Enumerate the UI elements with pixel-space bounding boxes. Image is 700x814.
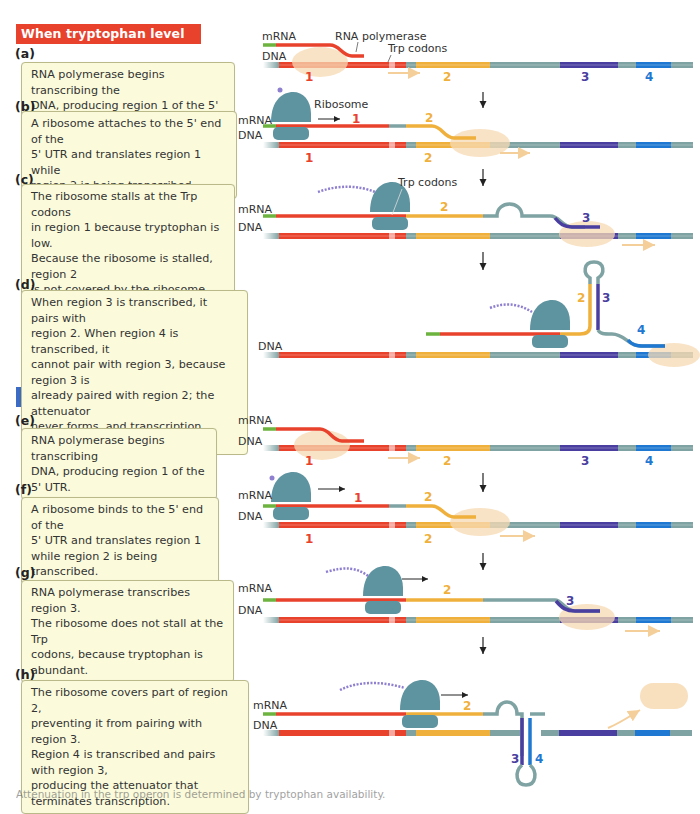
dna-label: DNA: [238, 129, 263, 142]
region-2-label: 2: [440, 200, 448, 214]
mrna-label: mRNA: [262, 30, 297, 43]
panel-d: DNA 2 3 4: [258, 262, 700, 367]
dna-label: DNA: [238, 221, 263, 234]
ribosome: [271, 472, 311, 520]
mrna-label: mRNA: [238, 203, 273, 216]
region-3-label: 3: [581, 70, 589, 84]
region-2-label: 2: [443, 583, 451, 597]
ribosome: [363, 566, 403, 614]
mrna-label: mRNA: [238, 489, 273, 502]
region-3-label: 3: [581, 454, 589, 468]
region-1-label: 1: [305, 151, 313, 165]
panel-f: mRNA DNA 1 2 1 2: [238, 472, 693, 546]
panel-b: mRNA DNA Ribosome 1 2 1 2: [238, 88, 693, 166]
rna-polymerase: [294, 430, 350, 460]
peptide-chain: [490, 305, 532, 312]
region-1-label: 1: [305, 70, 313, 84]
region-1-label: 1: [305, 454, 313, 468]
dna-label: DNA: [253, 719, 278, 732]
region-2-label: 2: [443, 70, 451, 84]
trp-codons-label: Trp codons: [397, 176, 458, 189]
dna-label: DNA: [238, 510, 263, 523]
figure-caption: Attenuation in the trp operon is determi…: [16, 788, 385, 800]
ribosome-label: Ribosome: [314, 98, 369, 111]
panel-e: mRNA DNA 1 2 3 4: [238, 414, 693, 468]
region-2-label: 2: [424, 151, 432, 165]
ribosome: [530, 300, 570, 348]
dna-label: DNA: [262, 50, 287, 63]
ribosome: [400, 680, 440, 728]
peptide-chain: [340, 683, 405, 690]
mrna-label: mRNA: [238, 414, 273, 427]
dna-label: DNA: [238, 435, 263, 448]
rna-polymerase: [450, 508, 510, 536]
panel-g: mRNA DNA 2 3: [238, 566, 693, 631]
region-2-label: 2: [425, 111, 433, 125]
region-2-label: 2: [577, 291, 585, 305]
region-3-label: 3: [582, 211, 590, 225]
dna-label: DNA: [238, 604, 263, 617]
released-rna-polymerase: [640, 683, 688, 709]
ribosome-stalled: [370, 182, 410, 230]
region-1-label: 1: [305, 532, 313, 546]
peptide-chain: [326, 569, 368, 576]
region-1-label: 1: [354, 491, 362, 505]
region-1-label: 1: [352, 112, 360, 126]
mrna-label: mRNA: [253, 699, 288, 712]
mrna-label: mRNA: [238, 114, 273, 127]
trp-codons-label: Trp codons: [387, 42, 448, 55]
region-2-label: 2: [463, 699, 471, 713]
region-4-label: 4: [645, 70, 653, 84]
panel-a: mRNA DNA RNA polymerase Trp codons 1 2 3…: [262, 30, 693, 84]
region-4-label: 4: [535, 752, 543, 766]
panel-h: mRNA DNA 2 3 4: [253, 680, 692, 785]
region-2-label: 2: [443, 454, 451, 468]
region-2-label: 2: [424, 490, 432, 504]
peptide-chain: [318, 187, 375, 192]
mrna-label: mRNA: [238, 582, 273, 595]
region-3-label: 3: [602, 291, 610, 305]
region-4-label: 4: [637, 323, 645, 337]
panel-c: mRNA DNA Trp codons 2 3: [238, 176, 693, 247]
region-2-label: 2: [424, 532, 432, 546]
region-3-label: 3: [511, 752, 519, 766]
attenuator-hairpin: [517, 765, 535, 785]
ribosome: [271, 92, 311, 140]
region-3-label: 3: [566, 594, 574, 608]
dna-label: DNA: [258, 340, 283, 353]
region-4-label: 4: [645, 454, 653, 468]
